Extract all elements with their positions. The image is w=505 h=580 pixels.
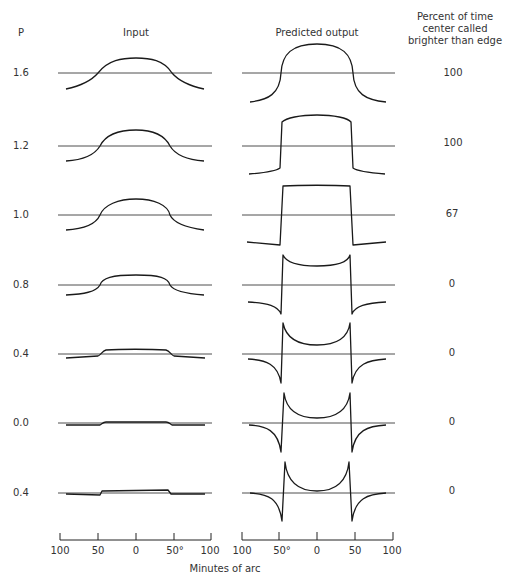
input-curve-row-1 (66, 58, 204, 89)
x-axis-label: Minutes of arc (190, 563, 261, 574)
output-curve-row-2 (249, 115, 385, 174)
input-curve-row-7 (66, 490, 205, 495)
input-panel (58, 58, 212, 540)
output-panel (242, 44, 395, 540)
input-tick-label-4: 50° (166, 545, 184, 556)
output-curve-row-7 (250, 462, 386, 521)
input-tick-label-2: 50 (92, 545, 105, 556)
output-tick-label-3: 0 (314, 545, 320, 556)
output-tick-label-1: 100 (232, 545, 251, 556)
input-curve-row-2 (66, 130, 204, 161)
output-tick-label-2: 50° (273, 545, 291, 556)
input-curve-row-6 (66, 422, 205, 425)
input-tick-label-3: 0 (133, 545, 139, 556)
input-tick-label-1: 100 (50, 545, 69, 556)
input-curve-row-3 (66, 199, 204, 230)
output-curve-row-5 (248, 323, 386, 383)
input-tick-label-5: 100 (200, 545, 219, 556)
output-tick-label-4: 50 (349, 545, 362, 556)
profiles-figure (0, 0, 505, 580)
output-curve-row-6 (249, 393, 386, 452)
output-curve-row-4 (248, 255, 386, 314)
output-tick-label-5: 100 (382, 545, 401, 556)
